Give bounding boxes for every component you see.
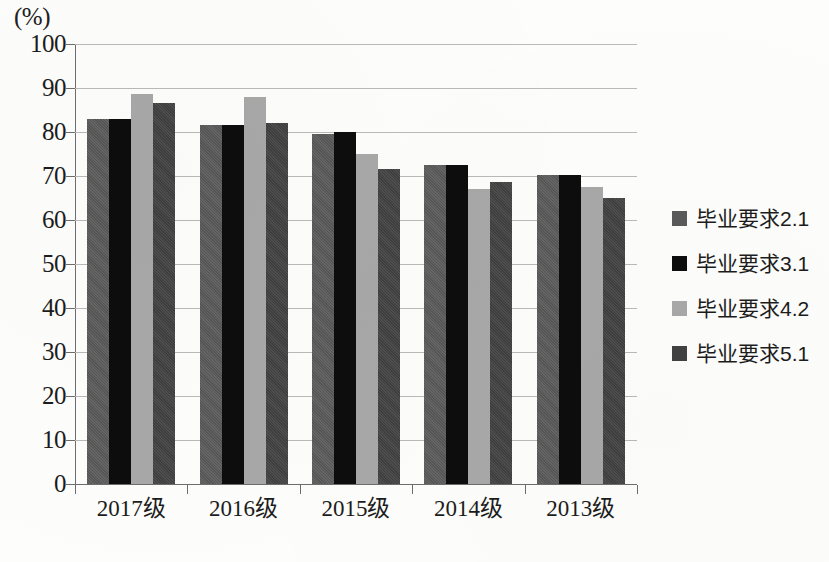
bar xyxy=(109,119,131,484)
y-axis-tick-label: 30 xyxy=(4,339,66,364)
bar xyxy=(446,165,468,484)
bar xyxy=(222,125,244,484)
x-axis-tick xyxy=(75,485,76,494)
bar xyxy=(131,94,153,484)
legend-item-label: 毕业要求4.2 xyxy=(696,298,809,319)
x-axis-category-label: 2016级 xyxy=(187,497,299,520)
bar xyxy=(537,175,559,484)
legend-swatch-icon xyxy=(672,211,687,226)
x-axis-tick xyxy=(187,485,188,494)
x-axis-tick xyxy=(525,485,526,494)
y-axis-tick xyxy=(66,132,75,133)
axis-baseline xyxy=(75,484,637,485)
bar-group xyxy=(537,44,625,484)
bar-group xyxy=(424,44,512,484)
y-axis-tick xyxy=(66,44,75,45)
bar xyxy=(559,175,581,484)
bar xyxy=(244,97,266,484)
legend-swatch-icon xyxy=(672,256,687,271)
bar xyxy=(200,125,222,484)
legend-item[interactable]: 毕业要求3.1 xyxy=(672,241,827,286)
y-axis-tick xyxy=(66,484,75,485)
bar-chart: (%) 0102030405060708090100 2017级2016级201… xyxy=(0,0,829,562)
y-axis-tick-label: 90 xyxy=(4,75,66,100)
y-axis-tick-label: 40 xyxy=(4,295,66,320)
x-axis-tick xyxy=(412,485,413,494)
bar-group xyxy=(200,44,288,484)
x-axis-category-label: 2014级 xyxy=(412,497,524,520)
legend-item-label: 毕业要求2.1 xyxy=(696,208,809,229)
bar-group xyxy=(312,44,400,484)
legend-item[interactable]: 毕业要求5.1 xyxy=(672,331,827,376)
legend-swatch-icon xyxy=(672,301,687,316)
x-axis-tick xyxy=(637,485,638,494)
y-axis-tick-label: 50 xyxy=(4,251,66,276)
bar xyxy=(153,103,175,484)
bar xyxy=(378,169,400,484)
bar xyxy=(266,123,288,484)
y-axis-tick-label: 0 xyxy=(4,471,66,496)
y-axis-tick xyxy=(66,396,75,397)
bar xyxy=(581,187,603,484)
y-axis-labels: 0102030405060708090100 xyxy=(0,0,66,562)
y-axis-tick-label: 60 xyxy=(4,207,66,232)
y-axis-tick xyxy=(66,308,75,309)
bar xyxy=(490,182,512,484)
y-axis-tick xyxy=(66,264,75,265)
bar xyxy=(468,189,490,484)
x-axis-category-label: 2013级 xyxy=(525,497,637,520)
bar xyxy=(424,165,446,484)
legend: 毕业要求2.1毕业要求3.1毕业要求4.2毕业要求5.1 xyxy=(672,196,827,376)
y-axis-tick xyxy=(66,220,75,221)
y-axis-tick xyxy=(66,440,75,441)
bar-group xyxy=(87,44,175,484)
legend-item-label: 毕业要求5.1 xyxy=(696,343,809,364)
y-axis-tick xyxy=(66,176,75,177)
bar xyxy=(87,119,109,484)
x-axis-tick xyxy=(300,485,301,494)
plot-area xyxy=(75,44,637,484)
y-axis-tick xyxy=(66,88,75,89)
y-axis-tick-label: 10 xyxy=(4,427,66,452)
bar xyxy=(312,134,334,484)
legend-item[interactable]: 毕业要求4.2 xyxy=(672,286,827,331)
y-axis-tick-label: 20 xyxy=(4,383,66,408)
x-axis-category-label: 2017级 xyxy=(75,497,187,520)
legend-item[interactable]: 毕业要求2.1 xyxy=(672,196,827,241)
x-axis-category-label: 2015级 xyxy=(300,497,412,520)
y-axis-tick-label: 70 xyxy=(4,163,66,188)
bar xyxy=(603,198,625,484)
y-axis-tick xyxy=(66,352,75,353)
legend-item-label: 毕业要求3.1 xyxy=(696,253,809,274)
legend-swatch-icon xyxy=(672,346,687,361)
bar xyxy=(356,154,378,484)
y-axis-tick-label: 100 xyxy=(4,31,66,56)
bar xyxy=(334,132,356,484)
y-axis-tick-label: 80 xyxy=(4,119,66,144)
